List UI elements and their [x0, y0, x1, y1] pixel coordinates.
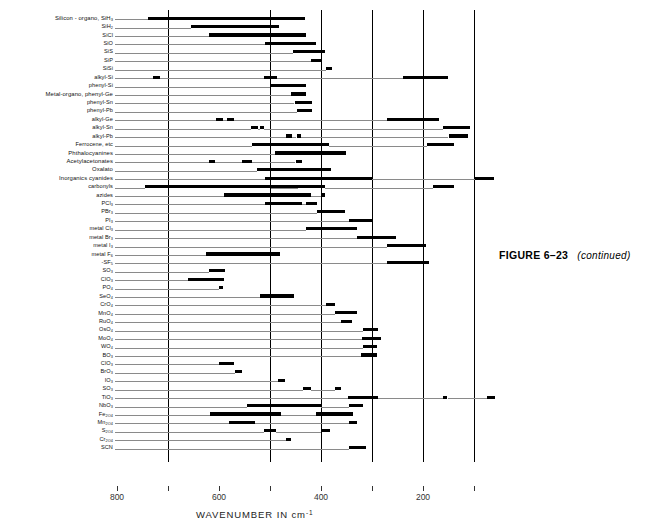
- row-leader-line: [234, 120, 387, 121]
- range-bar: [191, 25, 279, 28]
- row-leader-line: [321, 407, 349, 408]
- figure-caption-note: (continued): [577, 250, 630, 261]
- axis-tick-200: [423, 486, 424, 491]
- range-bar: [219, 362, 234, 365]
- row-label: PI3: [105, 217, 113, 225]
- row-leader-line: [448, 398, 487, 399]
- range-bar: [311, 59, 321, 62]
- row-leader-line: [115, 339, 362, 340]
- range-bar: [357, 236, 397, 239]
- row-leader-line: [115, 103, 294, 104]
- range-bar: [387, 261, 429, 264]
- range-bar: [321, 193, 325, 196]
- row-leader-line: [115, 289, 219, 290]
- range-bar: [291, 92, 305, 95]
- row-leader-line: [115, 53, 293, 54]
- range-bar: [265, 177, 372, 180]
- x-axis-title: WAVENUMBER IN cm-1: [196, 509, 314, 520]
- range-bar: [297, 109, 312, 112]
- row-leader-line: [311, 196, 321, 197]
- range-bar: [487, 396, 496, 399]
- row-leader-line: [115, 247, 387, 248]
- row-label: WO4: [101, 343, 113, 351]
- range-bar: [403, 76, 449, 79]
- range-bar: [361, 353, 377, 356]
- range-bar: [148, 17, 305, 20]
- axis-tick-600: [219, 486, 220, 491]
- range-bar: [188, 278, 224, 281]
- axis-tick-label-600: 600: [212, 492, 226, 502]
- row-leader-line: [115, 61, 311, 62]
- row-label: Phthalocyanines: [68, 150, 113, 156]
- row-label: Fe2O4: [99, 411, 113, 419]
- range-bar: [235, 370, 242, 373]
- row-leader-line: [311, 390, 336, 391]
- range-bar: [209, 269, 225, 272]
- range-bar: [270, 84, 306, 87]
- row-label: carbonyls: [88, 183, 113, 189]
- range-bar: [427, 143, 454, 146]
- row-leader-line: [115, 280, 188, 281]
- row-leader-line: [115, 440, 286, 441]
- range-bar: [278, 379, 286, 382]
- x-axis-ticks: 800600400200: [0, 486, 653, 494]
- row-label: ClO3: [101, 276, 113, 284]
- range-bar: [321, 429, 330, 432]
- row-leader-line: [115, 449, 349, 450]
- axis-tick-300: [372, 486, 373, 491]
- row-leader-line: [115, 423, 229, 424]
- row-leader-line: [115, 381, 278, 382]
- row-label: SO3: [102, 385, 113, 393]
- row-label: Silicon - organo, SiH3: [55, 15, 113, 23]
- row-leader-line: [115, 390, 303, 391]
- row-leader-line: [325, 188, 433, 189]
- range-bar: [251, 126, 258, 129]
- range-bar: [227, 118, 235, 121]
- row-label: BO3: [102, 352, 113, 360]
- row-label: metal Br3: [89, 234, 113, 242]
- row-leader-line: [281, 415, 316, 416]
- range-bar: [275, 151, 346, 154]
- row-leader-line: [115, 19, 148, 20]
- axis-tick-label-200: 200: [416, 492, 430, 502]
- row-leader-line: [115, 146, 252, 147]
- row-leader-line: [115, 179, 265, 180]
- row-label: alkyl-Ge: [92, 116, 113, 122]
- row-label: metal I3: [93, 242, 113, 250]
- row-leader-line: [115, 204, 265, 205]
- row-label: SO3: [102, 267, 113, 275]
- row-leader-line: [115, 28, 191, 29]
- range-bar: [247, 404, 321, 407]
- row-label: Cr2O4: [99, 436, 113, 444]
- row-label: Metal-organo, phenyl-Ge: [46, 91, 113, 97]
- row-leader-line: [115, 373, 235, 374]
- row-label: OsO4: [99, 326, 113, 334]
- row-leader-line: [115, 263, 387, 264]
- range-bar: [326, 303, 335, 306]
- range-bar: [306, 202, 317, 205]
- range-bar: [242, 160, 252, 163]
- range-bar: [303, 387, 311, 390]
- row-label: SiSi: [103, 65, 113, 71]
- row-leader-line: [115, 196, 224, 197]
- row-label: SiP: [104, 57, 113, 63]
- row-label: phenyl-Pb: [87, 107, 113, 113]
- range-bar: [298, 185, 325, 188]
- row-leader-line: [115, 348, 363, 349]
- range-bar: [362, 337, 381, 340]
- range-bar: [264, 76, 277, 79]
- range-bar: [335, 311, 356, 314]
- row-label: MnO4: [98, 310, 113, 318]
- range-bar: [443, 126, 470, 129]
- range-bar: [387, 244, 425, 247]
- row-label: Acetylacetonates: [67, 158, 113, 164]
- range-bar: [348, 396, 379, 399]
- row-leader-line: [115, 356, 361, 357]
- range-bar: [153, 76, 160, 79]
- row-leader-line: [115, 297, 260, 298]
- row-leader-line: [115, 398, 348, 399]
- row-label: alkyl-Si: [94, 74, 113, 80]
- range-bar: [206, 252, 280, 255]
- row-label: Oxalato: [92, 166, 113, 172]
- range-bar: [317, 210, 346, 213]
